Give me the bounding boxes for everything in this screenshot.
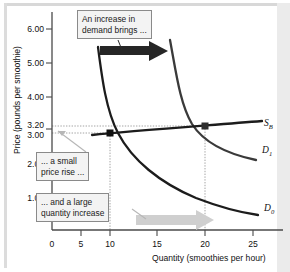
curve-label-sb: SB — [264, 118, 273, 130]
price-rise-callout-line2: price rise ... — [41, 167, 84, 178]
curve-label-d1-sub: 1 — [269, 150, 272, 157]
x-axis-title: Quantity (smoothies per hour) — [152, 253, 266, 263]
curve-label-sb-sub: B — [269, 123, 273, 130]
supply-curve-sb — [92, 121, 262, 135]
x-tick-label-25: 25 — [243, 239, 263, 249]
demand-shift-callout-line1: An increase in — [82, 14, 147, 25]
price-rise-callout-line1: ... a small — [41, 156, 84, 167]
price-rise-callout: ... a small price rise ... — [36, 152, 89, 181]
x-tick-label-10: 10 — [100, 239, 120, 249]
y-tick-label-6: 6.00 — [8, 24, 44, 34]
quantity-increase-callout: ... and a large quantity increase — [36, 193, 109, 222]
curve-label-d0: D0 — [264, 203, 274, 215]
x-tick-label-0: 0 — [42, 239, 62, 249]
quantity-increase-callout-line2: quantity increase — [41, 208, 104, 219]
x-tick-label-15: 15 — [147, 239, 167, 249]
demand-curve-d0 — [98, 47, 258, 215]
new-equilibrium-point — [202, 123, 209, 130]
quantity-increase-callout-line1: ... and a large — [41, 197, 104, 208]
curve-label-d0-sub: 0 — [271, 208, 274, 215]
demand-shift-arrow — [100, 41, 168, 61]
curve-label-d0-text: D — [264, 203, 271, 213]
x-tick-label-20: 20 — [195, 239, 215, 249]
quantity-increase-arrow — [136, 210, 214, 230]
curve-label-d1-text: D — [262, 145, 269, 155]
curve-label-d1: D1 — [262, 145, 272, 157]
price-rise-leader-head — [58, 131, 66, 136]
x-axis-ticks — [81, 230, 253, 236]
chart-figure: 6.00 5.00 4.00 3.20 3.00 2.00 1.00 0 5 1… — [0, 0, 290, 272]
initial-equilibrium-point — [107, 130, 114, 137]
x-tick-label-5: 5 — [71, 239, 91, 249]
curves — [92, 40, 262, 215]
y-axis-title: Price (pounds per smoothie) — [12, 35, 22, 165]
demand-curve-d1 — [170, 40, 256, 160]
demand-shift-callout: An increase in demand brings ... — [77, 10, 152, 39]
demand-shift-callout-line2: demand brings ... — [82, 25, 147, 36]
